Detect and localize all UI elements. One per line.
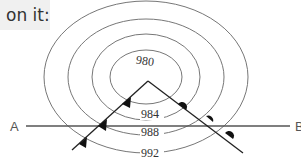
cold-front-triangle-icon — [122, 97, 131, 108]
section-label-b: B — [295, 119, 301, 134]
cold-front-triangle-icon — [98, 119, 107, 131]
isobar-label-988: 988 — [141, 125, 159, 139]
isobar-label-984: 984 — [141, 107, 159, 121]
isobar-label-980: 980 — [135, 53, 155, 69]
isobar-label-992: 992 — [141, 146, 159, 160]
section-label-a: A — [10, 119, 19, 134]
cold-front-line — [72, 81, 148, 150]
warm-front-semicircle-icon — [206, 115, 213, 122]
weather-map-diagram: 980 984 988 992 A B — [0, 0, 301, 162]
warm-front-semicircle-icon — [225, 131, 234, 139]
